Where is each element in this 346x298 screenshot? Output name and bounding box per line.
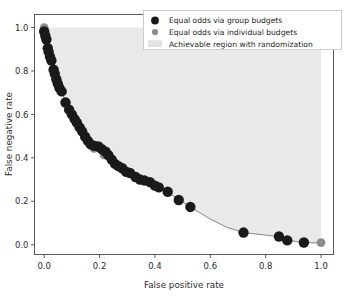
x-tick-label: 1.0 (314, 261, 328, 271)
x-tick-label: 0.4 (148, 261, 162, 271)
legend-label: Achievable region with randomization (169, 40, 313, 49)
data-point (185, 202, 195, 212)
y-tick-label: 1.0 (15, 23, 29, 33)
data-point (162, 187, 172, 197)
chart-legend: Equal odds via group budgetsEqual odds v… (144, 11, 342, 50)
x-tick-label: 0.6 (204, 261, 218, 271)
legend-marker (152, 29, 158, 35)
x-tick-label: 0.0 (37, 261, 51, 271)
x-tick-label: 0.2 (93, 261, 107, 271)
x-axis-ticks: 0.00.20.40.60.81.0 (37, 255, 327, 271)
data-point (56, 86, 66, 96)
y-tick-label: 0.6 (15, 110, 29, 120)
data-point (174, 195, 184, 205)
legend-label: Equal odds via group budgets (169, 16, 282, 25)
y-tick-label: 0.4 (15, 153, 29, 163)
data-point (282, 235, 292, 245)
y-axis-ticks: 0.00.20.40.60.81.0 (15, 23, 35, 250)
data-point (317, 238, 326, 247)
y-axis-title: False negative rate (4, 92, 14, 176)
y-tick-label: 0.0 (15, 240, 29, 250)
data-point (238, 227, 248, 237)
tradeoff-scatter-plot: 0.00.20.40.60.81.0 0.00.20.40.60.81.0 Fa… (0, 0, 346, 298)
legend-marker (151, 17, 159, 25)
chart-figure: 0.00.20.40.60.81.0 0.00.20.40.60.81.0 Fa… (0, 0, 346, 298)
x-axis-title: False positive rate (144, 280, 224, 290)
x-tick-label: 0.8 (259, 261, 273, 271)
legend-label: Equal odds via individual budgets (169, 28, 297, 37)
data-point (299, 237, 309, 247)
y-tick-label: 0.8 (15, 66, 29, 76)
data-point (46, 55, 56, 65)
data-point (41, 34, 51, 44)
data-point (154, 182, 164, 192)
y-tick-label: 0.2 (15, 196, 29, 206)
legend-patch (148, 40, 162, 47)
